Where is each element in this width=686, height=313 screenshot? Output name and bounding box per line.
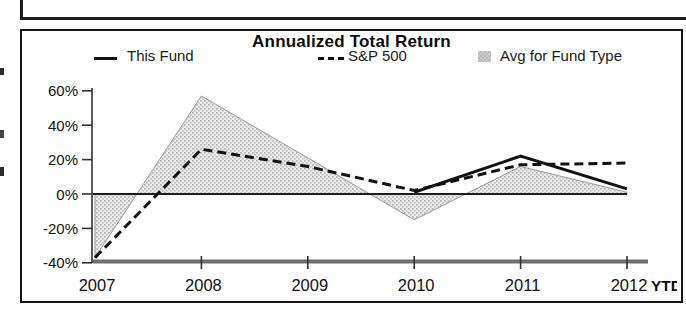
page-background: { "chart": { "title": "Annualized Total … — [0, 0, 686, 313]
y-tick-label: 20% — [48, 151, 78, 168]
y-tick-label: 0% — [56, 186, 78, 203]
x-tick-label: 2007 — [79, 276, 116, 294]
y-tick-label: 40% — [48, 117, 78, 134]
x-tick-label: 2012 — [611, 276, 648, 294]
x-tick-label: 2011 — [505, 276, 540, 294]
annualized-return-chart: 60%40%20%0%-20%-40%200720082009201020112… — [22, 31, 677, 297]
y-tick-label: -20% — [43, 220, 78, 237]
page-edge-artifact — [0, 167, 4, 176]
y-tick-label: -40% — [43, 254, 78, 271]
page-edge-artifact — [0, 68, 4, 75]
x-tick-label: 2010 — [398, 276, 435, 294]
chart-panel: Annualized Total Return This Fund S&P 50… — [20, 29, 683, 303]
x-axis-suffix-ytd: YTD — [651, 277, 677, 294]
prior-section-bottom-border — [20, 17, 686, 20]
page-edge-artifact — [0, 130, 4, 138]
x-tick-label: 2009 — [291, 276, 328, 294]
x-tick-label: 2008 — [185, 276, 222, 294]
y-tick-label: 60% — [48, 82, 78, 99]
